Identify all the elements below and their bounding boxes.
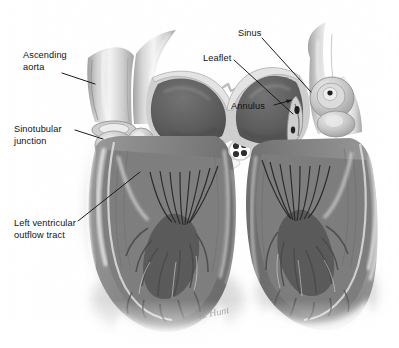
label-annulus: Annulus (231, 101, 265, 113)
bottom-fade (0, 300, 399, 348)
label-sinotubular-junction: Sinotubular junction (14, 124, 62, 147)
label-leaflet: Leaflet (203, 53, 231, 65)
label-ascending-aorta: Ascending aorta (23, 50, 67, 73)
label-lvot: Left ventricular outflow tract (14, 218, 76, 241)
label-sinus: Sinus (238, 28, 261, 40)
medical-illustration-figure: Ascending aorta Sinotubular junction Lef… (0, 0, 399, 348)
